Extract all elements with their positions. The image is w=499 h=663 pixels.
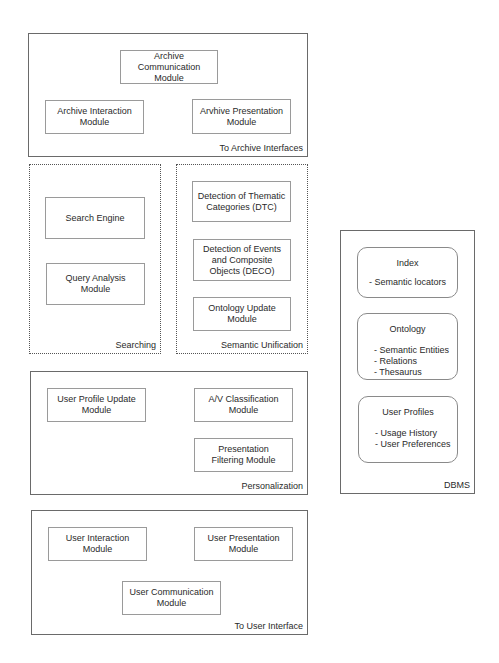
user-interface-group: User Interaction Module User Presentatio… [31, 510, 308, 635]
user-profiles-store: User Profiles - Usage History - User Pre… [358, 396, 458, 463]
dbms-group: Index - Semantic locators Ontology - Sem… [340, 230, 475, 494]
user-profiles-items: - Usage History - User Preferences [375, 428, 457, 450]
search-engine-module: Search Engine [45, 197, 145, 239]
dbms-label: DBMS [444, 480, 470, 490]
user-presentation-module: User Presentation Module [194, 527, 293, 561]
index-items: - Semantic locators [358, 277, 457, 288]
index-title: Index [358, 258, 457, 269]
user-profiles-title: User Profiles [359, 407, 457, 418]
presentation-filtering-module: Presentation Filtering Module [194, 438, 293, 472]
ontology-items: - Semantic Entities - Relations - Thesau… [374, 345, 457, 378]
semantic-unification-label: Semantic Unification [221, 340, 303, 350]
archive-presentation-module: Arvhive Presentation Module [192, 99, 291, 134]
archive-interfaces-group: Archive Communication Module Archive Int… [28, 33, 308, 157]
archive-interfaces-label: To Archive Interfaces [219, 143, 303, 153]
user-profile-update-module: User Profile Update Module [47, 388, 146, 422]
semantic-unification-group: Detection of Thematic Categories (DTC) D… [176, 164, 308, 354]
index-store: Index - Semantic locators [357, 247, 458, 298]
av-classification-module: A/V Classification Module [194, 388, 293, 422]
query-analysis-module: Query Analysis Module [46, 263, 145, 305]
ontology-title: Ontology [358, 324, 457, 335]
searching-group: Search Engine Query Analysis Module Sear… [29, 164, 161, 354]
user-interaction-module: User Interaction Module [48, 527, 147, 561]
ontology-update-module: Ontology Update Module [193, 297, 291, 331]
personalization-label: Personalization [241, 481, 303, 491]
searching-label: Searching [115, 340, 156, 350]
deco-module: Detection of Events and Composite Object… [193, 239, 291, 281]
personalization-group: User Profile Update Module A/V Classific… [30, 371, 308, 495]
user-interface-label: To User Interface [234, 621, 303, 631]
archive-interaction-module: Archive Interaction Module [45, 100, 144, 134]
archive-communication-module: Archive Communication Module [120, 50, 218, 84]
ontology-store: Ontology - Semantic Entities - Relations… [357, 313, 458, 380]
user-communication-module: User Communication Module [122, 581, 221, 615]
dtc-module: Detection of Thematic Categories (DTC) [192, 181, 291, 222]
